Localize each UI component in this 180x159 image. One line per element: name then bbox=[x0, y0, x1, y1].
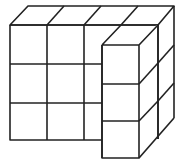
column-side-divider bbox=[139, 63, 158, 84]
side-divider bbox=[158, 45, 174, 63]
column-side-divider bbox=[139, 101, 158, 121]
cube-structure-diagram bbox=[0, 0, 180, 159]
side-divider bbox=[158, 83, 174, 101]
protruding-column bbox=[102, 25, 158, 158]
bottom-diagonal bbox=[139, 118, 174, 158]
